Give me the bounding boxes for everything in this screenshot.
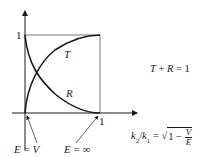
annotation-e-equals-infinity: E = ∞ (64, 144, 90, 155)
frac-den: E (185, 138, 193, 147)
eq-one-minus: 1 − (168, 131, 182, 142)
annotation-rhs: ∞ (82, 143, 90, 155)
transmission-curve (25, 35, 100, 113)
annotation-op: = (23, 143, 29, 155)
curve-label-t: T (64, 49, 70, 60)
equation-ratio: k2/k1 = √1 − VE (131, 127, 192, 147)
y-tick-1: 1 (16, 30, 22, 41)
eq-equals-one: = 1 (176, 63, 190, 74)
annotation-rhs: V (32, 143, 39, 155)
annotation-lhs: E (14, 143, 21, 155)
annotation-op: = (73, 143, 79, 155)
eq-r: R (167, 63, 173, 74)
eq-t: T (150, 63, 156, 74)
pointer-e-equals-infinity (76, 116, 98, 143)
x-tick-1: 1 (99, 116, 105, 127)
pointer-e-equals-v (27, 116, 37, 143)
curve-label-r: R (66, 88, 73, 99)
annotation-lhs: E (64, 143, 71, 155)
equation-sum: T + R = 1 (150, 64, 190, 75)
annotation-e-equals-v: E = V (14, 144, 39, 155)
eq-equals: = (153, 130, 159, 141)
eq-plus: + (158, 63, 164, 74)
fraction-v-over-e: VE (185, 128, 193, 147)
sqrt-body: 1 − VE (167, 127, 192, 147)
eq-sub: 1 (147, 137, 151, 145)
